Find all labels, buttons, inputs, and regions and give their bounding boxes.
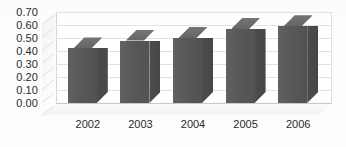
bar-front-face bbox=[173, 38, 202, 103]
y-tick-label: 0.60 bbox=[16, 19, 38, 31]
y-tick-label: 0.20 bbox=[16, 71, 38, 83]
bar-top-face bbox=[231, 18, 260, 29]
bar bbox=[173, 38, 202, 103]
bar bbox=[278, 26, 307, 103]
y-tick-label: 0.40 bbox=[16, 45, 38, 57]
bar-top-face bbox=[73, 37, 102, 48]
bar bbox=[120, 41, 149, 103]
bar-side-face bbox=[255, 29, 266, 103]
x-tick-label: 2003 bbox=[128, 118, 152, 130]
bar-front-face bbox=[226, 29, 255, 103]
bar-front-face bbox=[120, 41, 149, 103]
bar-chart-figure: 0.700.600.500.400.300.200.100.00 2002200… bbox=[0, 0, 346, 147]
bars-layer bbox=[42, 12, 334, 115]
bar bbox=[226, 29, 255, 103]
y-tick-label: 0.70 bbox=[16, 6, 38, 18]
plot-area bbox=[42, 12, 334, 115]
bar-front-face bbox=[278, 26, 307, 103]
bar-side-face bbox=[307, 26, 318, 103]
bar-top-face bbox=[284, 15, 313, 26]
bar-side-face bbox=[97, 48, 108, 103]
x-tick-label: 2005 bbox=[233, 118, 257, 130]
y-tick-label: 0.00 bbox=[16, 97, 38, 109]
x-tick-label: 2004 bbox=[181, 118, 205, 130]
x-tick-label: 2002 bbox=[76, 118, 100, 130]
y-tick-label: 0.30 bbox=[16, 58, 38, 70]
bar-top-face bbox=[126, 30, 155, 41]
chart-title bbox=[0, 0, 346, 6]
bar-side-face bbox=[149, 41, 160, 103]
y-axis: 0.700.600.500.400.300.200.100.00 bbox=[0, 12, 40, 115]
x-tick-label: 2006 bbox=[286, 118, 310, 130]
y-tick-label: 0.10 bbox=[16, 84, 38, 96]
x-axis: 20022003200420052006 bbox=[42, 118, 334, 134]
bar bbox=[68, 48, 97, 103]
y-tick-label: 0.50 bbox=[16, 32, 38, 44]
bar-front-face bbox=[68, 48, 97, 103]
bar-side-face bbox=[202, 38, 213, 103]
bar-top-face bbox=[179, 27, 208, 38]
